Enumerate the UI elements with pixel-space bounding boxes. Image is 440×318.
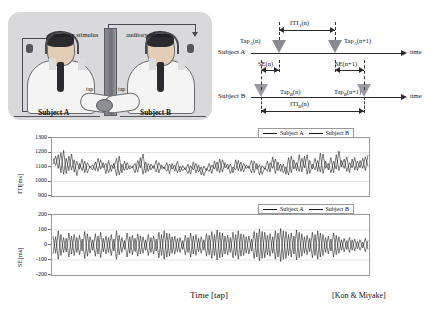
timeline-b-time-label: time xyxy=(410,92,422,99)
se-chart-plot-area xyxy=(51,214,370,276)
subject-a-illustration xyxy=(18,30,102,114)
ytick-label: 200 xyxy=(21,211,47,217)
iti-a-label: ITIA(n) xyxy=(290,19,309,28)
se-chart: SE[ms] 2001000-100-200 Subject A Subject… xyxy=(0,203,440,285)
iti-a-right-guide xyxy=(335,22,336,40)
auditory-stimulus-label-left: auditory stimulus xyxy=(53,31,98,38)
iti-chart-legend: Subject A Subject B xyxy=(258,128,354,138)
iti-legend-swatch-b xyxy=(309,133,323,134)
subject-b-earcup-right xyxy=(187,44,194,53)
iti-chart-plot-area xyxy=(51,137,370,197)
se-chart-svg xyxy=(52,215,369,275)
subject-b-tie xyxy=(157,62,164,92)
iti-a-arrow-right-icon xyxy=(330,27,335,33)
timing-subject-a-label: Subject A xyxy=(218,48,245,56)
photo-illustration: auditory stimulus auditory stimulus tap … xyxy=(8,12,212,120)
subject-a-collar xyxy=(49,58,85,70)
tap-a-n-marker xyxy=(272,40,286,53)
iti-b-label: ITIB(n) xyxy=(290,100,309,109)
se-n-label: SE(n) xyxy=(258,60,273,67)
timeline-a xyxy=(251,53,401,54)
se-n1-arrow-left-icon xyxy=(335,67,340,73)
iti-b-arrow-right-icon xyxy=(359,108,364,114)
timeline-a-time-label: time xyxy=(410,48,422,55)
subject-b-illustration xyxy=(118,30,202,114)
timing-diagram: Subject A time TapA(n) TapA(n+1) ITIA(n)… xyxy=(218,8,436,120)
iti-legend-swatch-a xyxy=(263,133,277,134)
tap-b-n1-label: TapB(n+1) xyxy=(334,88,361,97)
tap-label-right: tap xyxy=(118,86,125,92)
se-legend-item-subject-b: Subject B xyxy=(309,206,350,212)
subject-a-earcup-left xyxy=(26,44,33,53)
source-credit: [Kon & Miyake] xyxy=(332,291,386,300)
se-legend-swatch-b xyxy=(309,209,323,210)
ytick-label: -100 xyxy=(21,256,47,262)
subject-b-collar xyxy=(149,58,185,70)
se-legend-label-a: Subject A xyxy=(280,206,304,212)
subject-a-caption: Subject A xyxy=(38,108,69,117)
timeline-b-arrow-icon xyxy=(401,94,407,100)
timeline-a-arrow-icon xyxy=(401,50,407,56)
iti-legend-item-subject-a: Subject A xyxy=(263,130,304,136)
se-chart-legend: Subject A Subject B xyxy=(258,204,354,214)
ytick-label: 900 xyxy=(21,192,47,198)
ytick-label: 1100 xyxy=(21,163,47,169)
ytick-label: 1000 xyxy=(21,177,47,183)
iti-b-measure-line xyxy=(261,111,364,112)
se-legend-swatch-a xyxy=(263,209,277,210)
se-legend-label-b: Subject B xyxy=(326,206,350,212)
experiment-photo-panel: auditory stimulus auditory stimulus tap … xyxy=(8,12,212,120)
iti-legend-label-b: Subject B xyxy=(326,130,350,136)
tap-a-n1-marker xyxy=(328,40,342,53)
tap-a-n-label: TapA(n) xyxy=(240,37,260,46)
auditory-stimulus-label-right: auditory stimulus xyxy=(126,31,171,38)
ytick-label: 1300 xyxy=(21,134,47,140)
figure-root: auditory stimulus auditory stimulus tap … xyxy=(0,0,440,318)
se-n-arrow-right-icon xyxy=(274,67,279,73)
se-n-right-guide xyxy=(279,60,280,72)
timeline-b xyxy=(251,97,401,98)
tap-label-left: tap xyxy=(86,86,93,92)
se-legend-item-subject-a: Subject A xyxy=(263,206,304,212)
iti-a-arrow-left-icon xyxy=(279,27,284,33)
x-axis-caption: Time [tap] xyxy=(190,290,228,300)
iti-chart: ITI[ms] 1300120011001000900 Subject A Su… xyxy=(0,128,440,206)
iti-legend-item-subject-b: Subject B xyxy=(309,130,350,136)
subject-b-hand xyxy=(96,99,113,112)
iti-a-measure-line xyxy=(279,30,335,31)
tap-b-n-label: TapB(n) xyxy=(280,88,300,97)
iti-b-right-guide xyxy=(364,97,365,113)
wire-top xyxy=(108,24,196,26)
se-n-arrow-left-icon xyxy=(261,67,266,73)
subject-b-caption: Subject B xyxy=(140,108,171,117)
ytick-label: 100 xyxy=(21,226,47,232)
iti-legend-label-a: Subject A xyxy=(280,130,304,136)
ytick-label: -200 xyxy=(21,271,47,277)
se-n1-label: SE(n+1) xyxy=(335,60,357,67)
subject-a-tie xyxy=(57,62,64,92)
ytick-label: 0 xyxy=(21,241,47,247)
ytick-label: 1200 xyxy=(21,148,47,154)
iti-b-arrow-left-icon xyxy=(261,108,266,114)
timing-subject-b-label: Subject B xyxy=(218,92,245,100)
iti-chart-svg xyxy=(52,138,369,196)
tap-a-n1-label: TapA(n+1) xyxy=(344,37,371,46)
se-n1-arrow-right-icon xyxy=(359,67,364,73)
se-n1-right-guide xyxy=(364,60,365,90)
